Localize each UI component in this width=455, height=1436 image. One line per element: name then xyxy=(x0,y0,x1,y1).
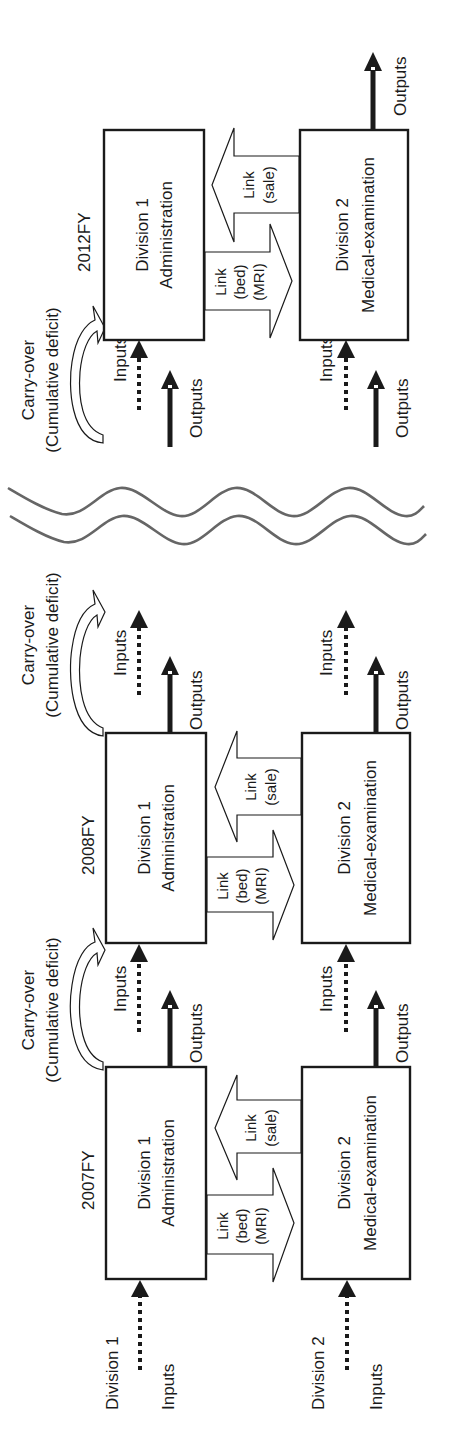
division1-inputs-label: Inputs xyxy=(111,966,130,1012)
carry-over-curved-arrow xyxy=(70,306,105,443)
division2-outputs-label: Outputs xyxy=(393,670,412,730)
division2-title: Division 2 xyxy=(335,801,354,875)
division2-subtitle: Medical-examination xyxy=(361,760,380,916)
division1-title: Division 1 xyxy=(135,1136,154,1210)
link-label: Link xyxy=(242,1114,259,1142)
division2-outputs-label: Outputs xyxy=(391,56,410,116)
cumulative-deficit-label: (Cumulative deficit) xyxy=(43,307,62,453)
diagram-canvas: Division 1 Inputs Division 2 Inputs 2007… xyxy=(0,0,455,1436)
period-2012fy: Carry-over (Cumulative deficit) Inputs O… xyxy=(19,52,412,453)
division1-title: Division 1 xyxy=(133,198,152,272)
division1-box xyxy=(106,1067,206,1279)
arrow-notch xyxy=(168,1005,172,1008)
cumulative-deficit-label: (Cumulative deficit) xyxy=(43,937,62,1083)
link-label: Link xyxy=(214,1212,231,1240)
link-sale-label: (sale) xyxy=(262,1109,279,1147)
division2-label: Division 2 xyxy=(309,1336,328,1410)
division2-outputs-label: Outputs xyxy=(393,1003,412,1063)
link-mri-label: (MRI) xyxy=(252,867,269,905)
period-2007fy: Division 1 Inputs Division 2 Inputs 2007… xyxy=(79,990,412,1410)
link-label: Link xyxy=(212,268,229,296)
year-label: 2007FY xyxy=(79,1150,98,1210)
link-sale-label: (sale) xyxy=(260,166,277,204)
arrowhead-icon xyxy=(131,1280,149,1297)
division2-box xyxy=(302,1067,410,1279)
wave-line-icon xyxy=(10,516,426,544)
period-2008fy: Carry-over (Cumulative deficit) Inputs I… xyxy=(19,572,412,1083)
arrow-notch xyxy=(374,1005,378,1008)
link-label: Link xyxy=(240,171,257,199)
division1-outputs-label: Outputs xyxy=(187,378,206,438)
link-label: Link xyxy=(214,872,231,900)
division1-box xyxy=(104,130,204,340)
division1-inputs-label: Inputs xyxy=(111,630,130,676)
carry-over-label: Carry-over xyxy=(19,970,38,1051)
link-mri-label: (MRI) xyxy=(250,263,267,301)
division1-label: Division 1 xyxy=(103,1336,122,1410)
link-bed-label: (bed) xyxy=(233,868,250,903)
wave-line-icon xyxy=(8,488,424,516)
division1-inputs-label: Inputs xyxy=(111,336,130,382)
link-bed-label: (bed) xyxy=(233,1208,250,1243)
link-sale-label: (sale) xyxy=(262,768,279,806)
division2-inputs-label: Inputs xyxy=(367,1364,386,1410)
division2-inputs-label: Inputs xyxy=(317,630,336,676)
time-break-waves xyxy=(8,488,426,544)
division1-outputs-label: Outputs xyxy=(187,670,206,730)
link-bed-label: (bed) xyxy=(231,264,248,299)
arrow-notch xyxy=(371,67,375,70)
carry-over-curved-arrow xyxy=(70,928,105,1070)
arrowhead-icon xyxy=(337,610,355,628)
year-label: 2008FY xyxy=(79,815,98,875)
cumulative-deficit-label: (Cumulative deficit) xyxy=(43,572,62,718)
carry-over-curved-arrow xyxy=(70,590,105,736)
division2-box xyxy=(302,733,410,943)
division1-subtitle: Administration xyxy=(159,784,178,892)
division1-title: Division 1 xyxy=(135,801,154,875)
division1-inputs-label: Inputs xyxy=(159,1364,178,1410)
division2-inputs-label: Inputs xyxy=(317,966,336,1012)
arrow-notch xyxy=(168,385,172,388)
carry-over-label: Carry-over xyxy=(19,605,38,686)
arrow-notch xyxy=(168,671,172,674)
arrowhead-icon xyxy=(337,944,355,962)
division2-subtitle: Medical-examination xyxy=(359,157,378,313)
division2-title: Division 2 xyxy=(333,198,352,272)
arrowhead-icon xyxy=(338,1280,356,1297)
division2-box xyxy=(300,130,408,340)
arrowhead-icon xyxy=(130,610,148,628)
division1-subtitle: Administration xyxy=(157,181,176,289)
link-label: Link xyxy=(242,773,259,801)
link-mri-label: (MRI) xyxy=(252,1207,269,1245)
division2-outputs-label: Outputs xyxy=(393,378,412,438)
division1-box xyxy=(106,733,206,943)
division1-outputs-label: Outputs xyxy=(187,1003,206,1063)
arrowhead-icon xyxy=(130,340,148,358)
arrow-notch xyxy=(374,671,378,674)
carry-over-label: Carry-over xyxy=(19,340,38,421)
year-label: 2012FY xyxy=(75,212,94,272)
division2-title: Division 2 xyxy=(335,1136,354,1210)
division2-subtitle: Medical-examination xyxy=(361,1095,380,1251)
arrowhead-icon xyxy=(130,944,148,962)
arrow-notch xyxy=(374,385,378,388)
division1-subtitle: Administration xyxy=(159,1119,178,1227)
division2-inputs-label: Inputs xyxy=(317,336,336,382)
arrowhead-icon xyxy=(337,340,355,358)
